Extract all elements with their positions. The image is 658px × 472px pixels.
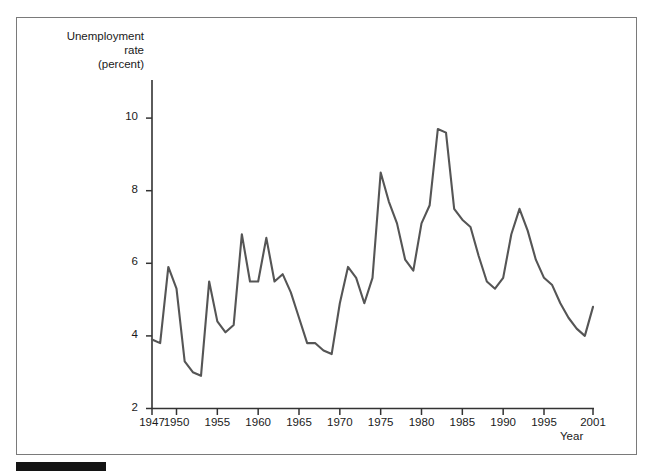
x-tick-label: 1975 (361, 416, 401, 428)
x-tick-label: 1965 (279, 416, 319, 428)
x-tick-label: 1970 (320, 416, 360, 428)
x-tick-label: 1950 (157, 416, 197, 428)
y-tick-label: 2 (112, 401, 138, 413)
y-axis-title: Unemployment rate (percent) (36, 29, 144, 71)
x-tick-label: 1990 (483, 416, 523, 428)
x-tick-label: 1960 (238, 416, 278, 428)
y-tick-label: 8 (112, 183, 138, 195)
footer-marker-bar (16, 462, 106, 471)
x-tick-label: 1955 (197, 416, 237, 428)
x-axis-title: Year (560, 430, 583, 442)
x-tick-label: 1980 (402, 416, 442, 428)
x-tick-label: 1985 (442, 416, 482, 428)
x-tick-label: 2001 (573, 416, 613, 428)
y-tick-label: 10 (112, 110, 138, 122)
x-tick-label: 1995 (524, 416, 564, 428)
y-tick-label: 4 (112, 328, 138, 340)
y-tick-label: 6 (112, 255, 138, 267)
figure-frame (16, 17, 637, 455)
